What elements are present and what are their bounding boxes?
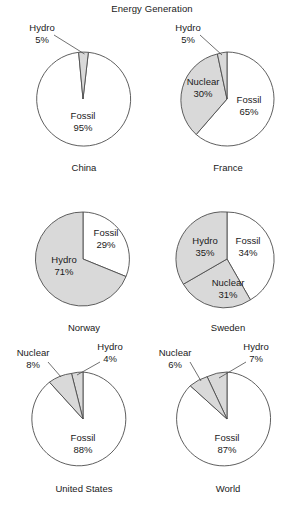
pie-label-sweden-fossil-pct: 34% [238,247,258,258]
pie-label-france-fossil-name: Fossil [237,94,262,105]
pie-label-world-fossil-pct: 87% [217,444,237,455]
pie-label-world-hydro-name: Hydro [243,341,268,352]
pie-label-france-nuclear-name: Nuclear [187,76,220,87]
pie-chart-france: Hydro 5% Nuclear 30% Fossil 65% [152,22,304,182]
pie-label-world-fossil-name: Fossil [215,432,240,443]
pie-label-norway-hydro-pct: 71% [54,266,74,277]
pie-label-china-hydro-name: Hydro [29,22,54,33]
pie-label-france-fossil-pct: 65% [239,106,259,117]
pie-label-us-nuclear-name: Nuclear [17,347,50,358]
pie-label-us-hydro-name: Hydro [97,341,122,352]
pie-label-china-fossil-pct: 95% [73,122,93,133]
pie-label-us-hydro-pct: 4% [103,353,117,364]
pie-label-norway-hydro-name: Hydro [51,254,76,265]
pie-label-us-nuclear-pct: 8% [26,359,40,370]
leader-line-world-nuclear [190,362,201,381]
pie-panel-united-states: Hydro 4% Nuclear 8% Fossil 88% United St… [8,342,160,502]
pie-label-france-nuclear-pct: 30% [193,88,213,99]
pie-caption-norway: Norway [8,322,160,333]
pie-label-france-hydro-pct: 5% [181,34,195,45]
pie-chart-united-states: Hydro 4% Nuclear 8% Fossil 88% [8,342,160,502]
pie-label-china-hydro-pct: 5% [35,34,49,45]
leader-line-china-hydro [54,35,85,54]
pie-label-china-fossil-name: Fossil [71,110,96,121]
pie-label-world-nuclear-name: Nuclear [159,347,192,358]
pie-panel-norway: Fossil 29% Hydro 71% Norway [8,187,160,347]
pie-panel-france: Hydro 5% Nuclear 30% Fossil 65% France [152,22,304,182]
pie-panel-world: Hydro 7% Nuclear 6% Fossil 87% World [152,342,304,502]
figure-title: Energy Generation [0,3,304,14]
pie-chart-china: Hydro 5% Fossil 95% [8,22,160,182]
pie-caption-china: China [8,162,160,173]
pie-caption-france: France [152,162,304,173]
pie-label-norway-fossil-pct: 29% [96,239,116,250]
pie-label-france-hydro-name: Hydro [175,22,200,33]
pie-panel-china: Hydro 5% Fossil 95% China [8,22,160,182]
pie-label-sweden-nuclear-name: Nuclear [212,277,245,288]
pie-panel-sweden: Fossil 34% Hydro 35% Nuclear 31% Sweden [152,187,304,347]
pie-label-world-nuclear-pct: 6% [168,359,182,370]
energy-generation-figure: Energy Generation Hydro 5% Fossil 95% Ch… [0,0,304,509]
pie-label-sweden-hydro-pct: 35% [195,247,215,258]
pie-caption-united-states: United States [8,483,160,494]
pie-label-us-fossil-name: Fossil [71,432,96,443]
pie-chart-world: Hydro 7% Nuclear 6% Fossil 87% [152,342,304,502]
pie-label-norway-fossil-name: Fossil [94,227,119,238]
pie-label-sweden-hydro-name: Hydro [192,235,217,246]
pie-label-world-hydro-pct: 7% [249,353,263,364]
pie-label-sweden-fossil-name: Fossil [236,235,261,246]
pie-label-us-fossil-pct: 88% [73,444,93,455]
pie-label-sweden-nuclear-pct: 31% [218,289,238,300]
pie-caption-sweden: Sweden [152,322,304,333]
leader-line-us-nuclear [48,362,61,377]
pie-caption-world: World [152,483,304,494]
leader-line-france-hydro [200,35,222,55]
